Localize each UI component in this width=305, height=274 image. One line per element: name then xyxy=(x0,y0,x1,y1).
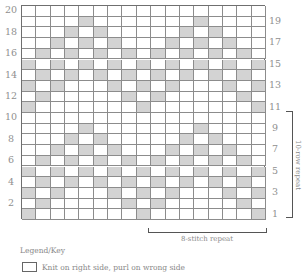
stitch-cell xyxy=(237,124,251,135)
stitch-cell xyxy=(180,6,194,17)
stitch-cell xyxy=(223,27,237,38)
stitch-cell xyxy=(137,124,151,135)
stitch-cell xyxy=(36,209,50,220)
stitch-cell xyxy=(108,199,122,210)
stitch-cell xyxy=(108,177,122,188)
stitch-cell xyxy=(166,49,180,60)
stitch-cell xyxy=(51,156,65,167)
row-number-right: 9 xyxy=(268,123,282,133)
stitch-cell-shaded xyxy=(237,92,251,103)
stitch-cell xyxy=(51,177,65,188)
stitch-cell-shaded xyxy=(122,156,136,167)
stitch-cell-shaded xyxy=(223,167,237,178)
row-repeat-bracket xyxy=(292,111,293,218)
stitch-cell xyxy=(94,188,108,199)
stitch-cell xyxy=(108,70,122,81)
stitch-cell xyxy=(237,134,251,145)
stitch-cell xyxy=(22,17,36,28)
stitch-cell-shaded xyxy=(209,27,223,38)
stitch-cell xyxy=(137,113,151,124)
stitch-cell-shaded xyxy=(108,81,122,92)
stitch-cell-shaded xyxy=(223,145,237,156)
stitch-cell xyxy=(151,209,165,220)
stitch-cell xyxy=(151,27,165,38)
stitch-repeat-bracket xyxy=(148,232,267,233)
row-number-left: 10 xyxy=(4,112,18,122)
stitch-cell-shaded xyxy=(137,60,151,71)
stitch-cell-shaded xyxy=(79,145,93,156)
stitch-cell xyxy=(94,60,108,71)
stitch-cell-shaded xyxy=(137,188,151,199)
stitch-cell-shaded xyxy=(79,38,93,49)
stitch-cell-shaded xyxy=(137,209,151,220)
stitch-cell-shaded xyxy=(194,38,208,49)
stitch-cell-shaded xyxy=(94,70,108,81)
stitch-cell xyxy=(122,167,136,178)
stitch-cell xyxy=(79,188,93,199)
stitch-cell xyxy=(22,134,36,145)
stitch-cell xyxy=(209,145,223,156)
stitch-cell xyxy=(65,199,79,210)
stitch-cell xyxy=(22,70,36,81)
stitch-cell-shaded xyxy=(122,199,136,210)
stitch-cell-shaded xyxy=(94,134,108,145)
stitch-cell xyxy=(237,167,251,178)
stitch-cell xyxy=(51,70,65,81)
stitch-cell xyxy=(65,145,79,156)
stitch-cell-shaded xyxy=(180,177,194,188)
stitch-cell xyxy=(237,17,251,28)
stitch-cell-shaded xyxy=(252,102,266,113)
stitch-cell xyxy=(122,6,136,17)
stitch-cell xyxy=(137,6,151,17)
stitch-cell xyxy=(237,27,251,38)
row-number-right: 3 xyxy=(268,187,282,197)
stitch-cell xyxy=(51,92,65,103)
stitch-cell-shaded xyxy=(237,49,251,60)
stitch-cell-shaded xyxy=(51,81,65,92)
stitch-cell xyxy=(166,134,180,145)
stitch-cell xyxy=(237,60,251,71)
stitch-cell xyxy=(223,49,237,60)
stitch-cell xyxy=(122,27,136,38)
stitch-cell xyxy=(194,92,208,103)
stitch-cell-shaded xyxy=(237,156,251,167)
stitch-cell-shaded xyxy=(180,49,194,60)
stitch-cell xyxy=(252,27,266,38)
stitch-cell xyxy=(209,188,223,199)
stitch-cell-shaded xyxy=(252,167,266,178)
stitch-cell xyxy=(252,199,266,210)
stitch-cell-shaded xyxy=(36,49,50,60)
stitch-cell xyxy=(180,81,194,92)
stitch-cell xyxy=(166,6,180,17)
row-number-right: 1 xyxy=(268,209,282,219)
stitch-cell-shaded xyxy=(180,134,194,145)
stitch-cell xyxy=(65,92,79,103)
stitch-cell xyxy=(51,6,65,17)
stitch-cell xyxy=(79,81,93,92)
stitch-cell-shaded xyxy=(94,27,108,38)
stitch-cell xyxy=(151,113,165,124)
stitch-cell xyxy=(237,6,251,17)
stitch-cell xyxy=(180,60,194,71)
stitch-cell xyxy=(108,209,122,220)
stitch-cell-shaded xyxy=(166,81,180,92)
stitch-cell xyxy=(137,27,151,38)
stitch-cell xyxy=(22,199,36,210)
stitch-cell-shaded xyxy=(79,60,93,71)
stitch-cell xyxy=(194,177,208,188)
row-number-left: 18 xyxy=(4,27,18,37)
stitch-cell xyxy=(180,92,194,103)
stitch-cell xyxy=(223,113,237,124)
stitch-cell-shaded xyxy=(36,70,50,81)
stitch-cell xyxy=(94,81,108,92)
stitch-cell-shaded xyxy=(166,145,180,156)
stitch-cell xyxy=(194,49,208,60)
stitch-cell-shaded xyxy=(51,145,65,156)
stitch-cell xyxy=(22,6,36,17)
stitch-cell xyxy=(194,188,208,199)
stitch-cell xyxy=(194,156,208,167)
stitch-cell-shaded xyxy=(151,156,165,167)
stitch-cell xyxy=(209,167,223,178)
stitch-cell xyxy=(151,124,165,135)
stitch-cell xyxy=(252,70,266,81)
